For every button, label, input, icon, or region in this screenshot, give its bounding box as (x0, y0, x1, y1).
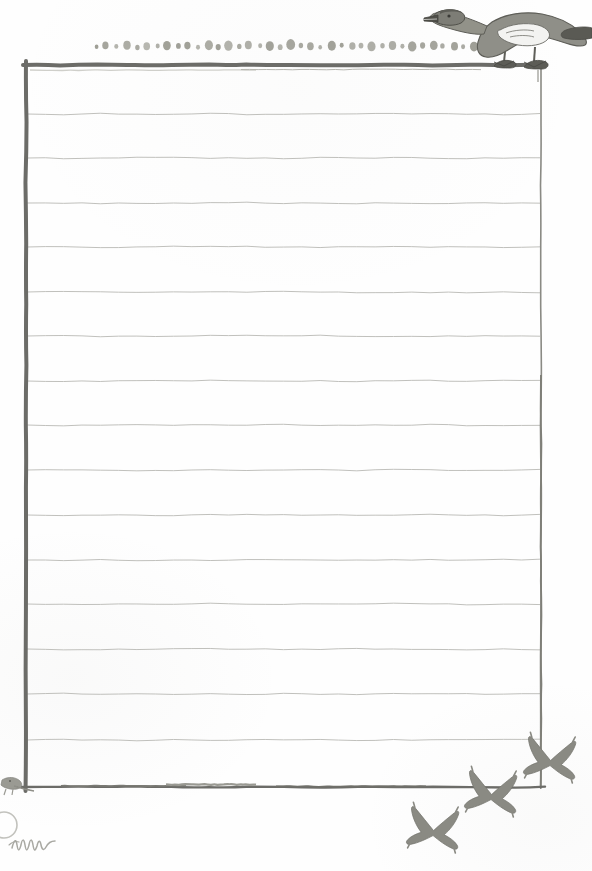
notepaper-page (0, 0, 592, 871)
paper-texture (0, 0, 592, 871)
